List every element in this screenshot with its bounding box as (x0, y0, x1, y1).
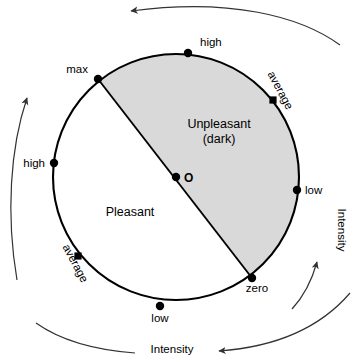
outer-arc-right (292, 262, 317, 309)
point-dot-high-top (184, 49, 192, 57)
outer-arc-bottom (219, 293, 350, 351)
point-dot-center-origin (172, 173, 180, 181)
label-unpleasant-line1: Unpleasant (187, 117, 251, 131)
label-low-right: low (305, 184, 323, 196)
diagram-canvas: max zero high high low low average avera… (0, 0, 351, 363)
point-dot-low-bottom (156, 302, 164, 310)
label-high-left: high (23, 157, 45, 169)
label-unpleasant-line2: (dark) (203, 132, 236, 146)
label-pleasant: Pleasant (106, 205, 155, 219)
outer-arc-left (11, 98, 27, 280)
label-intensity-right: Intensity (336, 209, 348, 252)
label-max: max (66, 63, 88, 75)
label-intensity-bottom: Intensity (151, 343, 194, 355)
label-low-bottom: low (151, 312, 169, 324)
outer-arc-bottom-left-tail (36, 323, 135, 353)
point-dot-zero (248, 274, 256, 282)
label-high-top: high (200, 36, 222, 48)
point-dot-low-right (293, 186, 301, 194)
intensity-circle-diagram: max zero high high low low average avera… (0, 0, 351, 363)
point-dot-average-upper-right (269, 96, 276, 103)
point-dot-high-left (50, 159, 58, 167)
label-average-lower-left: average (60, 242, 90, 284)
point-dot-max (94, 75, 102, 83)
label-origin: O (184, 171, 193, 185)
label-zero: zero (246, 282, 268, 294)
outer-arc-top (131, 7, 340, 45)
